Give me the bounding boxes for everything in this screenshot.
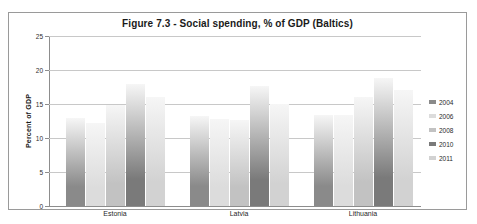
y-tick-mark (45, 36, 49, 37)
bar-lithuania-2008[interactable] (354, 97, 373, 206)
legend-item-2004[interactable]: 2004 (429, 95, 473, 109)
legend-label: 2008 (439, 127, 453, 134)
x-axis-label-estonia: Estonia (66, 210, 165, 217)
legend-label: 2004 (439, 99, 453, 106)
bar-lithuania-2006[interactable] (334, 115, 353, 206)
chart-title: Figure 7.3 - Social spending, % of GDP (… (9, 18, 466, 29)
bar-group: Estonia (66, 36, 165, 206)
bar-latvia-2011[interactable] (270, 104, 289, 206)
y-tick-label: 10 (36, 135, 43, 142)
legend-swatch-icon (429, 128, 436, 132)
legend-label: 2006 (439, 113, 453, 120)
legend-swatch-icon (429, 156, 436, 160)
legend-label: 2010 (439, 141, 453, 148)
x-axis-label-latvia: Latvia (190, 210, 289, 217)
legend-item-2008[interactable]: 2008 (429, 123, 473, 137)
bar-estonia-2010[interactable] (126, 84, 145, 206)
chart-legend: 20042006200820102011 (429, 95, 473, 165)
y-tick-label: 0 (39, 203, 43, 210)
legend-swatch-icon (429, 142, 436, 146)
bar-latvia-2004[interactable] (190, 116, 209, 206)
bar-group: Latvia (190, 36, 289, 206)
legend-label: 2011 (439, 155, 453, 162)
plot-area: 0510152025 EstoniaLatviaLithuania (49, 36, 421, 206)
gridline-0 (49, 206, 421, 207)
y-tick-mark (45, 206, 49, 207)
legend-item-2011[interactable]: 2011 (429, 151, 473, 165)
bar-lithuania-2004[interactable] (314, 115, 333, 206)
legend-item-2010[interactable]: 2010 (429, 137, 473, 151)
bar-estonia-2004[interactable] (66, 118, 85, 206)
y-tick-mark (45, 104, 49, 105)
y-tick-label: 15 (36, 101, 43, 108)
y-axis-title: Percent of GDP (23, 36, 35, 206)
y-axis-line (49, 36, 50, 206)
y-tick-mark (45, 70, 49, 71)
bar-estonia-2006[interactable] (86, 123, 105, 206)
bar-latvia-2006[interactable] (210, 119, 229, 206)
bar-estonia-2011[interactable] (146, 97, 165, 206)
bar-latvia-2010[interactable] (250, 86, 269, 206)
chart-frame: Figure 7.3 - Social spending, % of GDP (… (8, 12, 467, 210)
y-tick-label: 25 (36, 33, 43, 40)
bar-group: Lithuania (314, 36, 413, 206)
bar-lithuania-2010[interactable] (374, 78, 393, 206)
y-tick-label: 5 (39, 169, 43, 176)
x-axis-label-lithuania: Lithuania (314, 210, 413, 217)
legend-swatch-icon (429, 114, 436, 118)
y-tick-mark (45, 138, 49, 139)
legend-swatch-icon (429, 100, 436, 104)
bar-latvia-2008[interactable] (230, 120, 249, 206)
legend-item-2006[interactable]: 2006 (429, 109, 473, 123)
bar-estonia-2008[interactable] (106, 105, 125, 206)
y-tick-mark (45, 172, 49, 173)
bar-lithuania-2011[interactable] (394, 90, 413, 206)
y-tick-label: 20 (36, 67, 43, 74)
